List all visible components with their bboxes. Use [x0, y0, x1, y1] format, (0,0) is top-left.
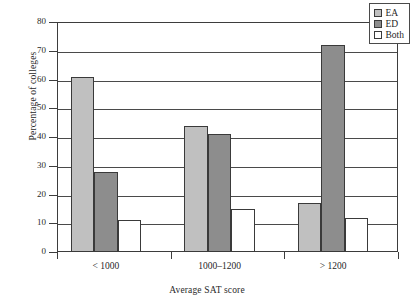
x-axis-tick — [284, 252, 285, 259]
bar-ea-2 — [298, 203, 322, 252]
x-axis-tick — [398, 252, 399, 259]
gridline — [58, 52, 397, 53]
y-axis-title: Percentage of colleges — [28, 16, 38, 176]
x-axis-category-label: < 1000 — [92, 261, 119, 271]
bar-chart-figure: Percentage of colleges 01020304050607080… — [0, 0, 414, 308]
bar-ea-1 — [184, 126, 208, 253]
y-axis-tick: 80 — [49, 22, 57, 23]
y-axis-tick-label: 40 — [37, 131, 46, 141]
bar-both-0 — [118, 220, 142, 252]
bar-ea-0 — [71, 77, 95, 252]
x-axis-title: Average SAT score — [0, 285, 414, 295]
legend-swatch-icon — [374, 9, 382, 17]
y-axis-tick-label: 10 — [37, 217, 46, 227]
bar-ed-0 — [94, 172, 118, 253]
legend-item-label: ED — [386, 19, 399, 29]
y-axis-tick: 0 — [49, 252, 57, 253]
legend-item-label: EA — [386, 8, 399, 18]
y-axis-tick: 20 — [49, 195, 57, 196]
y-axis-tick: 30 — [49, 166, 57, 167]
legend-item-both[interactable]: Both — [374, 29, 404, 40]
gridline — [58, 109, 397, 110]
x-axis-tick — [57, 252, 58, 259]
y-axis-tick: 70 — [49, 51, 57, 52]
legend-swatch-icon — [374, 31, 382, 39]
bar-both-2 — [345, 218, 369, 253]
y-axis-tick-label: 20 — [37, 189, 46, 199]
y-axis-tick: 50 — [49, 108, 57, 109]
x-axis-category-label: > 1200 — [320, 261, 347, 271]
y-axis-tick: 10 — [49, 223, 57, 224]
legend-item-ed[interactable]: ED — [374, 18, 404, 29]
y-axis-tick-label: 70 — [37, 45, 46, 55]
y-axis-tick: 40 — [49, 137, 57, 138]
chart-legend: EAEDBoth — [369, 3, 410, 44]
legend-item-label: Both — [386, 30, 404, 40]
x-axis-category-label: 1000–1200 — [198, 261, 241, 271]
bar-both-1 — [231, 209, 255, 252]
gridline — [58, 81, 397, 82]
y-axis-tick-label: 30 — [37, 160, 46, 170]
y-axis-tick-label: 50 — [37, 102, 46, 112]
x-axis-tick — [171, 252, 172, 259]
y-axis-tick-label: 80 — [37, 16, 46, 26]
legend-item-ea[interactable]: EA — [374, 7, 404, 18]
y-axis-tick: 60 — [49, 80, 57, 81]
y-axis-tick-label: 60 — [37, 74, 46, 84]
y-axis-tick-label: 0 — [42, 246, 47, 256]
legend-swatch-icon — [374, 20, 382, 28]
bar-ed-1 — [208, 134, 232, 252]
bar-ed-2 — [321, 45, 345, 252]
